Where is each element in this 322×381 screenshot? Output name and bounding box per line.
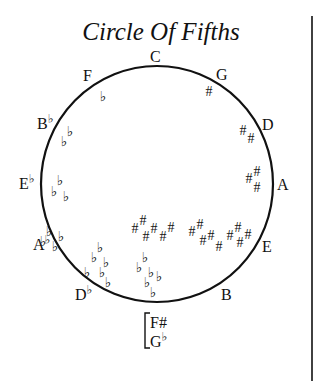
key-label-g: G xyxy=(216,66,228,83)
signature-f: ♭ xyxy=(100,89,107,104)
sharp-icon: # xyxy=(216,239,223,254)
enharmonic-f-sharp-g-flat: F# G♭ xyxy=(145,313,167,350)
key-letter: C xyxy=(150,48,161,65)
flat-icon: ♭ xyxy=(156,269,163,284)
signature-eb: ♭♭♭ xyxy=(51,173,70,204)
sharp-icon: # xyxy=(235,220,242,235)
key-label-a: A xyxy=(277,176,289,193)
signature-d: ## xyxy=(240,123,255,146)
key-label-eb: E♭ xyxy=(19,172,34,192)
sharp-icon: # xyxy=(245,227,252,242)
key-letter: B xyxy=(221,286,232,303)
flat-icon: ♭ xyxy=(150,285,157,300)
sharp-icon: # xyxy=(227,228,234,243)
key-letter: F xyxy=(83,67,92,84)
circle-of-fifths-diagram: Circle Of Fifths CGDAEBFB♭E♭A♭D♭ ♭♭♭♭♭♭♭… xyxy=(0,0,322,381)
flat-icon: ♭ xyxy=(46,224,53,239)
key-label-d: D xyxy=(262,116,274,133)
diagram-title: Circle Of Fifths xyxy=(82,18,239,45)
sharp-icon: # xyxy=(206,84,213,99)
signature-b: ##### xyxy=(189,217,223,254)
sharp-icon: # xyxy=(254,180,261,195)
signature-a: ### xyxy=(246,164,261,195)
signature-f-sharp: ###### xyxy=(132,213,175,244)
sharp-icon: # xyxy=(248,131,255,146)
flat-icon: ♭ xyxy=(29,172,35,186)
key-letter: D xyxy=(75,286,87,303)
key-label-e: E xyxy=(262,238,272,255)
key-signatures: ♭♭♭♭♭♭♭♭♭♭♭♭♭♭♭♭♭♭♭♭♭♭##################… xyxy=(40,84,261,300)
enharmonic-top-label: F# xyxy=(150,314,167,331)
signature-bb: ♭♭ xyxy=(61,124,74,149)
key-label-c: C xyxy=(150,48,161,65)
signature-gb: ♭♭♭♭♭♭ xyxy=(136,250,163,300)
key-label-bb: B♭ xyxy=(37,112,53,132)
sharp-icon: # xyxy=(208,228,215,243)
flat-icon: ♭ xyxy=(162,330,168,344)
sharp-icon: # xyxy=(237,235,244,250)
flat-icon: ♭ xyxy=(100,89,107,104)
fifths-circle xyxy=(41,66,273,302)
flat-icon: ♭ xyxy=(105,275,112,290)
sharp-icon: # xyxy=(132,221,139,236)
flat-icon: ♭ xyxy=(63,189,70,204)
key-letter: D xyxy=(262,116,274,133)
key-letter: E xyxy=(19,175,29,192)
sharp-icon: # xyxy=(143,229,150,244)
signature-e: #### xyxy=(227,220,252,250)
sharp-icon: # xyxy=(240,123,247,138)
enharmonic-bottom-label: G♭ xyxy=(150,330,167,350)
flat-icon: ♭ xyxy=(97,240,104,255)
sharp-icon: # xyxy=(246,171,253,186)
flat-icon: ♭ xyxy=(142,250,149,265)
key-letter: E xyxy=(262,238,272,255)
flat-icon: ♭ xyxy=(58,229,65,244)
key-label-b: B xyxy=(221,286,232,303)
key-letter: A xyxy=(277,176,289,193)
flat-icon: ♭ xyxy=(67,124,74,139)
enharmonic-bottom-letter: G xyxy=(150,333,162,350)
key-letter: B xyxy=(37,115,48,132)
flat-icon: ♭ xyxy=(48,112,54,126)
sharp-icon: # xyxy=(140,213,147,228)
sharp-icon: # xyxy=(189,224,196,239)
key-label-f: F xyxy=(83,67,92,84)
sharp-icon: # xyxy=(160,229,167,244)
sharp-icon: # xyxy=(197,217,204,232)
flat-icon: ♭ xyxy=(87,283,93,297)
sharp-icon: # xyxy=(254,164,261,179)
flat-icon: ♭ xyxy=(57,173,64,188)
key-label-db: D♭ xyxy=(75,283,92,303)
key-letter: G xyxy=(216,66,228,83)
signature-g: # xyxy=(206,84,213,99)
sharp-icon: # xyxy=(168,220,175,235)
sharp-icon: # xyxy=(200,233,207,248)
sharp-icon: # xyxy=(151,221,158,236)
flat-icon: ♭ xyxy=(84,265,91,280)
